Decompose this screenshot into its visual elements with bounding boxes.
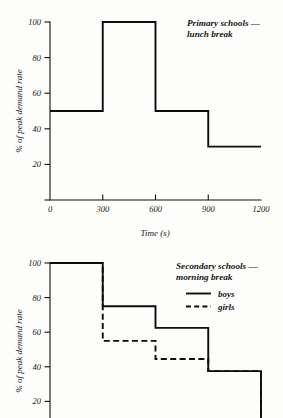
secondary-ytick-20: 20 <box>33 396 42 406</box>
primary-ytick-40: 40 <box>33 124 42 134</box>
primary-chart-svg: 20 40 60 80 100 0 300 600 900 1200 % of … <box>0 0 283 246</box>
legend-label-boys: boys <box>218 289 235 299</box>
secondary-ytick-40: 40 <box>33 362 42 372</box>
primary-y-axis-title: % of peak demand rate <box>14 69 24 152</box>
secondary-ytick-60: 60 <box>33 327 42 337</box>
primary-xtick-900: 900 <box>202 204 216 214</box>
primary-annotation-line1: Primary schools — <box>187 18 261 28</box>
primary-ytick-60: 60 <box>33 88 42 98</box>
primary-ytick-100: 100 <box>28 17 42 27</box>
secondary-legend: boys girls <box>186 289 235 312</box>
legend-label-girls: girls <box>217 302 235 312</box>
primary-x-axis-title: Time (s) <box>140 228 169 238</box>
secondary-annotation-line2: morning break <box>176 272 233 282</box>
secondary-ytick-100: 100 <box>28 258 42 268</box>
primary-demand-step-series <box>50 22 261 147</box>
primary-ytick-80: 80 <box>33 53 42 63</box>
secondary-y-axis-title: % of peak demand rate <box>14 309 24 392</box>
primary-x-ticks <box>103 195 209 201</box>
secondary-chart-svg: 100 80 60 40 20 % of peak demand rate Se… <box>0 246 283 418</box>
secondary-annotation-line1: Secondary schools — <box>176 261 258 271</box>
figure-page: 20 40 60 80 100 0 300 600 900 1200 % of … <box>0 0 283 418</box>
secondary-series-girls <box>50 263 261 418</box>
primary-annotation-line2: lunch break <box>187 29 233 39</box>
primary-xtick-0: 0 <box>48 204 53 214</box>
chart-secondary-schools: 100 80 60 40 20 % of peak demand rate Se… <box>0 246 283 418</box>
primary-ytick-20: 20 <box>33 159 42 169</box>
primary-xtick-300: 300 <box>95 204 110 214</box>
secondary-ytick-80: 80 <box>33 293 42 303</box>
primary-xtick-600: 600 <box>149 204 163 214</box>
primary-y-ticks <box>45 22 51 200</box>
secondary-y-ticks <box>45 263 51 401</box>
chart-primary-schools: 20 40 60 80 100 0 300 600 900 1200 % of … <box>0 0 283 246</box>
primary-xtick-1200: 1200 <box>253 204 271 214</box>
